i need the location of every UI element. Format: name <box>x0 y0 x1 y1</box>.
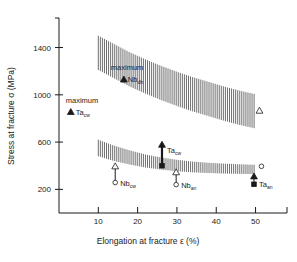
x-tick-label: 20 <box>133 217 142 226</box>
subscript: cw <box>84 112 91 118</box>
subscript: an <box>267 184 273 190</box>
y-tick-label: 1000 <box>33 91 51 100</box>
subscript: cw <box>130 183 137 189</box>
marker-open-circle-right <box>259 164 264 169</box>
subscript: an <box>191 185 197 191</box>
marker-nb-cw-bottom <box>113 180 118 185</box>
x-tick-label: 30 <box>172 217 181 226</box>
x-axis-title: Elongation at fracture ε (%) <box>97 236 200 246</box>
y-tick-label: 600 <box>38 138 52 147</box>
y-axis-title: Stress at fracture σ (MPa) <box>6 67 16 165</box>
chart-canvas: 20060010001400 1020304050 Elongation at … <box>0 0 297 262</box>
y-tick-label: 200 <box>38 185 52 194</box>
y-tick-label: 1400 <box>33 44 51 53</box>
marker-nb-an-bottom <box>174 182 179 187</box>
x-tick-label: 10 <box>94 217 103 226</box>
marker-ta-an-bottom <box>252 182 257 187</box>
figure-panel: 20060010001400 1020304050 Elongation at … <box>0 0 297 262</box>
subscript: cw <box>175 150 182 156</box>
marker-ta-cw-bottom <box>160 163 165 168</box>
maximum-label-ta-cw: maximum <box>66 96 99 105</box>
x-tick-label: 50 <box>251 217 260 226</box>
maximum-label-nb-dh: maximum <box>111 63 144 72</box>
subscript: dh <box>137 79 143 85</box>
x-tick-label: 40 <box>212 217 221 226</box>
